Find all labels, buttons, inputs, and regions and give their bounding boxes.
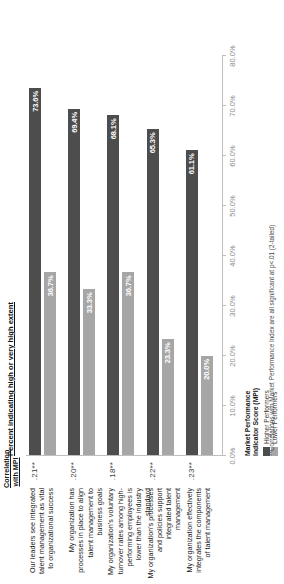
legend-title: Market Performance Indicator Score (MPI) <box>244 388 261 456</box>
bar-lower-performers[interactable]: 33.3% <box>83 290 95 457</box>
correlation-column-header: Correlation with MPI <box>2 456 20 488</box>
x-tick <box>222 255 226 256</box>
category-label: Our leaders see integrated talent manage… <box>28 488 56 580</box>
x-axis-line <box>222 56 223 456</box>
bar-lower-performers[interactable]: 20.0% <box>201 356 213 456</box>
x-tick <box>222 405 226 406</box>
correlation-value: .22** <box>148 454 157 488</box>
correlation-value: .18** <box>108 454 117 488</box>
correlation-value: .23** <box>187 454 196 488</box>
x-tick <box>222 155 226 156</box>
x-tick-label: 30.0% <box>228 295 237 316</box>
bar-group: 73.6%36.7% <box>26 56 65 456</box>
footnote: **Correlations with Market Performance I… <box>268 225 275 456</box>
x-tick-label: 40.0% <box>228 245 237 266</box>
legend-title-line1: Market Performance <box>244 388 252 456</box>
x-tick-label: 0.0% <box>228 447 237 464</box>
correlation-value: .21** <box>30 454 39 488</box>
x-tick-label: 60.0% <box>228 145 237 166</box>
x-tick <box>222 455 226 456</box>
bar-group: 61.1%20.0% <box>183 56 222 456</box>
bar-higher-performers[interactable]: 69.4% <box>68 109 80 456</box>
correlation-value: .20** <box>69 454 78 488</box>
x-tick-label: 10.0% <box>228 395 237 416</box>
axis-title: Percent indicating high or very high ext… <box>6 302 15 456</box>
bar-value-label: 65.3% <box>148 130 157 154</box>
x-tick-label: 80.0% <box>228 45 237 66</box>
bar-lower-performers[interactable]: 36.7% <box>122 273 134 457</box>
bar-value-label: 61.1% <box>187 151 196 175</box>
bar-group: 65.3%23.3% <box>144 56 183 456</box>
bar-value-label: 69.4% <box>70 109 79 133</box>
x-tick-label: 50.0% <box>228 195 237 216</box>
bar-value-label: 36.7% <box>124 273 133 297</box>
x-tick <box>222 355 226 356</box>
category-label: My organization effectively integrates t… <box>185 488 213 580</box>
bar-group: 69.4%33.3% <box>65 56 104 456</box>
bar-lower-performers[interactable]: 23.3% <box>162 340 174 457</box>
x-tick <box>222 205 226 206</box>
bar-higher-performers[interactable]: 65.3% <box>147 130 159 457</box>
category-label: My organization's processes and policies… <box>146 488 183 580</box>
x-tick <box>222 105 226 106</box>
bar-higher-performers[interactable]: 73.6% <box>29 88 41 456</box>
chart-figure: Percent indicating high or very high ext… <box>0 0 284 584</box>
plot-area: 73.6%36.7%69.4%33.3%68.1%36.7%65.3%23.3%… <box>26 56 222 456</box>
bar-value-label: 33.3% <box>85 290 94 314</box>
bar-higher-performers[interactable]: 61.1% <box>186 151 198 457</box>
x-tick <box>222 305 226 306</box>
bar-lower-performers[interactable]: 36.7% <box>44 273 56 457</box>
bar-value-label: 20.0% <box>202 356 211 380</box>
bar-value-label: 23.3% <box>163 340 172 364</box>
x-tick-label: 70.0% <box>228 95 237 116</box>
x-tick <box>222 55 226 56</box>
x-tick-label: 20.0% <box>228 345 237 366</box>
bar-group: 68.1%36.7% <box>104 56 143 456</box>
legend-title-line2: Indicator Score (MPI) <box>252 388 260 456</box>
bar-value-label: 68.1% <box>109 116 118 140</box>
bar-value-label: 36.7% <box>46 273 55 297</box>
bar-higher-performers[interactable]: 68.1% <box>107 116 119 457</box>
category-label: My organization has processes in place t… <box>67 488 104 580</box>
bar-value-label: 73.6% <box>31 88 40 112</box>
